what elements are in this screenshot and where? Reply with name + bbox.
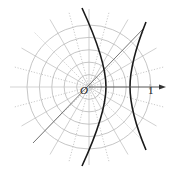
grid-ray xyxy=(50,87,89,155)
origin-label: O xyxy=(80,84,88,96)
grid-ray xyxy=(34,32,89,87)
grid-ray xyxy=(14,67,89,87)
polar-axis-arrowhead-icon xyxy=(159,85,166,90)
grid-ray xyxy=(89,87,144,142)
grid-ray xyxy=(89,20,128,88)
grid-ray xyxy=(89,32,144,87)
grid-ray xyxy=(69,87,89,162)
unit-label: 1 xyxy=(148,84,154,96)
grid-ray xyxy=(89,87,157,126)
grid-ray xyxy=(69,12,89,87)
grid-ray xyxy=(50,20,89,88)
polar-hyperbola-diagram: O 1 xyxy=(0,0,171,173)
asymptote-line xyxy=(33,28,144,143)
grid-ray xyxy=(22,48,90,87)
grid-ray xyxy=(89,48,157,87)
grid-ray xyxy=(89,87,128,155)
